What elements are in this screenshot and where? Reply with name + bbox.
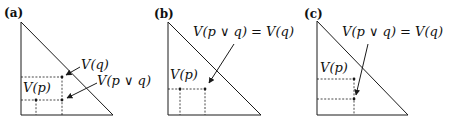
panel-a-vpq-label: V(p ∨ q) (97, 74, 151, 87)
panel-c-vp-label: V(p) (320, 61, 348, 74)
panel-b-arrow (209, 44, 234, 83)
panel-a-vp-label: V(p) (23, 81, 51, 94)
figure-stage: (a) V(p) V(q) V(p ∨ q) (b) V(p ∨ q) = V(… (0, 0, 449, 120)
panel-a-label: (a) (4, 7, 23, 19)
panel-b-dashed-guides (168, 89, 205, 115)
panel-c-dashed-guides (317, 79, 354, 115)
panel-c-points (353, 78, 356, 101)
diagram-canvas (0, 0, 449, 120)
panel-c-vpq-eq-label: V(p ∨ q) = V(q) (342, 25, 443, 38)
panel-c-arrow (356, 44, 368, 95)
panel-b-vpq-eq-label: V(p ∨ q) = V(q) (193, 25, 294, 38)
panel-b-vp-label: V(p) (170, 68, 198, 81)
panel-c-label: (c) (304, 8, 323, 20)
panel-a-vq-label: V(q) (81, 58, 109, 71)
panel-b-label: (b) (154, 8, 174, 20)
